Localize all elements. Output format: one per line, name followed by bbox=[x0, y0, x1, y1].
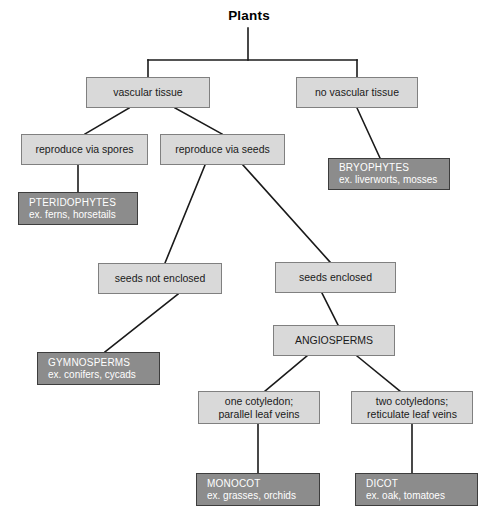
diagram-title: Plants bbox=[206, 8, 292, 23]
edge-angiosperms-dicot-branch bbox=[357, 356, 400, 391]
node-label: GYMNOSPERMS bbox=[48, 357, 159, 369]
node-example: ex. ferns, horsetails bbox=[29, 209, 137, 221]
node-label: seeds not enclosed bbox=[99, 272, 221, 284]
node-example: ex. grasses, orchids bbox=[207, 490, 319, 502]
node-example: ex. oak, tomatoes bbox=[366, 490, 477, 502]
node-reproduce-via-spores[interactable]: reproduce via spores bbox=[21, 134, 148, 165]
plant-classification-diagram: Plants vascular tissue no vascular tissu… bbox=[0, 0, 492, 522]
node-label: two cotyledons; bbox=[352, 395, 472, 407]
node-example: ex. conifers, cycads bbox=[48, 369, 159, 381]
node-label: BRYOPHYTES bbox=[339, 162, 449, 174]
edge-seeds-notenclosed bbox=[165, 165, 205, 263]
node-label: PTERIDOPHYTES bbox=[29, 197, 137, 209]
node-label: ANGIOSPERMS bbox=[274, 334, 394, 346]
node-reproduce-via-seeds[interactable]: reproduce via seeds bbox=[160, 134, 285, 165]
edge-vascular-spores bbox=[85, 108, 129, 134]
node-label: reproduce via spores bbox=[22, 143, 147, 155]
node-label: no vascular tissue bbox=[297, 86, 417, 98]
edge-notenclosed-gymnosperms bbox=[105, 294, 178, 352]
node-monocot[interactable]: MONOCOT ex. grasses, orchids bbox=[196, 473, 320, 506]
node-label: MONOCOT bbox=[207, 478, 319, 490]
node-label: vascular tissue bbox=[87, 86, 209, 98]
node-seeds-not-enclosed[interactable]: seeds not enclosed bbox=[98, 263, 222, 294]
node-one-cotyledon[interactable]: one cotyledon; parallel leaf veins bbox=[198, 391, 320, 424]
node-no-vascular-tissue[interactable]: no vascular tissue bbox=[296, 77, 418, 108]
node-seeds-enclosed[interactable]: seeds enclosed bbox=[275, 262, 396, 293]
node-dicot[interactable]: DICOT ex. oak, tomatoes bbox=[355, 473, 478, 506]
edge-angiosperms-monocot-branch bbox=[265, 356, 307, 391]
edge-seeds-enclosed bbox=[243, 165, 330, 262]
edge-novascular-bryophytes bbox=[357, 108, 380, 158]
node-label: one cotyledon; bbox=[199, 395, 319, 407]
node-example: ex. liverworts, mosses bbox=[339, 174, 449, 186]
edge-vascular-seeds bbox=[175, 108, 222, 134]
node-label: DICOT bbox=[366, 478, 477, 490]
node-gymnosperms[interactable]: GYMNOSPERMS ex. conifers, cycads bbox=[37, 352, 160, 385]
node-two-cotyledons[interactable]: two cotyledons; reticulate leaf veins bbox=[351, 391, 473, 424]
node-label: reproduce via seeds bbox=[161, 143, 284, 155]
node-vascular-tissue[interactable]: vascular tissue bbox=[86, 77, 210, 108]
node-label: seeds enclosed bbox=[276, 271, 395, 283]
node-pteridophytes[interactable]: PTERIDOPHYTES ex. ferns, horsetails bbox=[18, 192, 138, 225]
node-label-second-line: parallel leaf veins bbox=[199, 408, 319, 420]
node-label-second-line: reticulate leaf veins bbox=[352, 408, 472, 420]
node-angiosperms[interactable]: ANGIOSPERMS bbox=[273, 325, 395, 356]
node-bryophytes[interactable]: BRYOPHYTES ex. liverworts, mosses bbox=[328, 158, 450, 190]
connector-lines bbox=[0, 0, 492, 522]
edge-enclosed-angiosperms bbox=[322, 293, 338, 325]
